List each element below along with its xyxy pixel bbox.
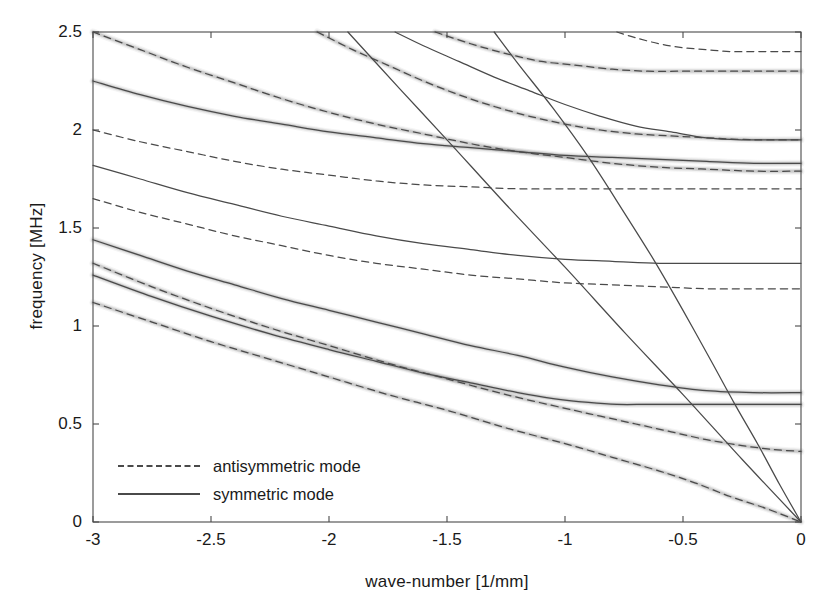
intensity-band (93, 263, 801, 451)
intensity-band (93, 32, 801, 171)
y-tick-2: 2 (36, 120, 82, 140)
x-tick--0.5: -0.5 (653, 530, 713, 550)
dispersion-chart-figure: frequency [MHz] 2.5 2 1.5 1 0.5 0 -3 -2.… (0, 0, 822, 610)
curve-A4 (93, 32, 801, 171)
y-tick-0: 0 (36, 512, 82, 532)
curve-A1 (93, 263, 801, 451)
intensity-band (435, 32, 801, 71)
y-tick-1.5: 1.5 (36, 218, 82, 238)
legend-label-antisymmetric: antisymmetric mode (213, 457, 361, 476)
intensity-band (93, 263, 801, 451)
x-tick--2.5: -2.5 (181, 530, 241, 550)
legend-label-symmetric: symmetric mode (213, 485, 334, 504)
x-tick-0: 0 (771, 530, 822, 550)
curve-S3 (93, 165, 801, 263)
x-axis-label: wave-number [1/mm] (93, 572, 801, 592)
intensity-band (93, 32, 801, 171)
experimental-intensity-bands (93, 32, 801, 522)
plot-area (0, 0, 822, 610)
legend-item-symmetric: symmetric mode (118, 480, 361, 508)
x-tick--1: -1 (535, 530, 595, 550)
legend-item-antisymmetric: antisymmetric mode (118, 452, 361, 480)
y-tick-0.5: 0.5 (36, 414, 82, 434)
y-tick-1: 1 (36, 316, 82, 336)
x-tick--3: -3 (63, 530, 123, 550)
legend: antisymmetric mode symmetric mode (118, 452, 361, 508)
intensity-band (93, 32, 801, 171)
x-tick--1.5: -1.5 (417, 530, 477, 550)
curve-A1-top-branch (617, 32, 801, 52)
x-axis-tick-labels: -3 -2.5 -2 -1.5 -1 -0.5 0 (0, 530, 822, 556)
curve-S1-upper (395, 32, 801, 140)
intensity-band (93, 263, 801, 451)
y-axis-tick-labels: 2.5 2 1.5 1 0.5 0 (30, 0, 82, 610)
y-tick-2.5: 2.5 (36, 22, 82, 42)
x-tick--2: -2 (299, 530, 359, 550)
